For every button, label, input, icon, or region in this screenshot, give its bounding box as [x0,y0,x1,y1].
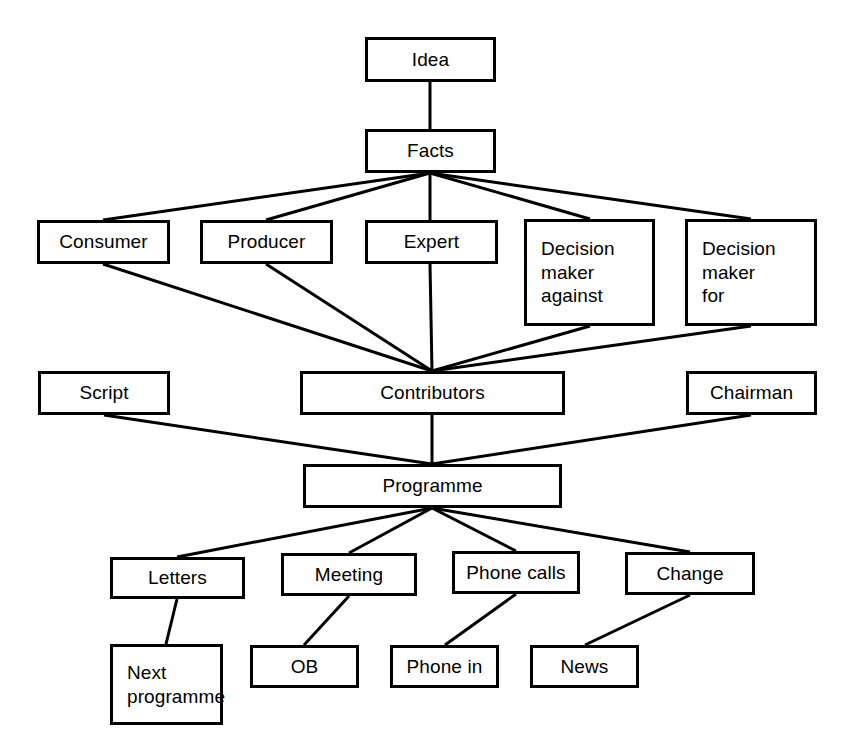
edge-facts-to-producer [266,173,430,220]
node-next-programme[interactable]: Next programme [110,644,223,725]
flow-diagram: IdeaFactsConsumerProducerExpertDecision … [0,0,851,750]
node-label-idea: Idea [404,48,457,72]
node-label-decision-for: Decision maker for [688,237,776,308]
edge-expert-to-contributors [430,264,432,371]
node-expert[interactable]: Expert [365,220,498,264]
node-producer[interactable]: Producer [200,220,333,264]
node-ob[interactable]: OB [250,645,359,688]
node-label-chairman: Chairman [702,381,801,405]
node-programme[interactable]: Programme [303,464,562,508]
node-label-meeting: Meeting [307,563,391,587]
edge-programme-to-change [432,508,690,552]
edge-script-to-programme [104,415,432,464]
edge-chairman-to-programme [432,415,751,464]
node-label-next-programme: Next programme [113,661,225,708]
node-letters[interactable]: Letters [110,557,245,599]
node-script[interactable]: Script [38,371,170,415]
node-chairman[interactable]: Chairman [686,371,817,415]
node-label-programme: Programme [374,474,490,498]
edge-producer-to-contributors [266,264,432,371]
node-decision-for[interactable]: Decision maker for [685,219,817,326]
node-label-phone-calls: Phone calls [458,561,573,585]
node-label-phone-in: Phone in [399,655,491,679]
node-consumer[interactable]: Consumer [37,220,170,264]
node-change[interactable]: Change [625,552,755,595]
node-label-decision-against: Decision maker against [527,237,615,308]
edge-change-to-news [585,595,690,645]
node-label-consumer: Consumer [51,230,155,254]
node-label-expert: Expert [396,230,468,254]
edge-programme-to-letters [177,508,432,557]
node-label-contributors: Contributors [372,381,493,405]
node-phone-calls[interactable]: Phone calls [452,551,580,594]
node-label-change: Change [648,562,731,586]
edge-facts-to-consumer [103,173,430,220]
node-label-ob: OB [283,655,327,679]
node-phone-in[interactable]: Phone in [390,645,499,688]
node-facts[interactable]: Facts [365,129,496,173]
edge-consumer-to-contributors [103,264,432,371]
node-label-producer: Producer [220,230,314,254]
edge-letters-to-next-programme [166,599,177,644]
node-idea[interactable]: Idea [365,37,496,82]
edge-meeting-to-ob [304,596,349,645]
node-meeting[interactable]: Meeting [281,553,417,596]
node-label-facts: Facts [399,139,462,163]
edge-facts-to-decision-for [430,173,751,219]
node-label-news: News [553,655,617,679]
edge-decision-for-to-contributors [432,326,751,371]
node-label-letters: Letters [140,566,215,590]
edge-decision-against-to-contributors [432,326,590,371]
node-contributors[interactable]: Contributors [300,371,565,415]
node-label-script: Script [71,381,136,405]
edge-phone-calls-to-phone-in [445,594,516,645]
node-decision-against[interactable]: Decision maker against [524,219,655,326]
node-news[interactable]: News [530,645,639,688]
edge-facts-to-decision-against [430,173,590,219]
edge-programme-to-meeting [349,508,432,553]
edge-programme-to-phone-calls [432,508,516,551]
